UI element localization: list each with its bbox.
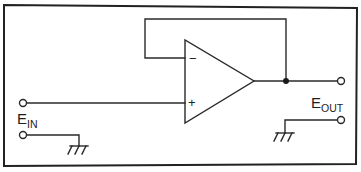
inverting-input-sign: − (189, 51, 197, 66)
output-ground-wire (285, 120, 338, 133)
output-label: EOUT (311, 94, 344, 114)
output-terminal-ground (338, 117, 345, 124)
ground-icon-out (274, 133, 294, 141)
feedback-wire (145, 19, 286, 81)
junction-node (283, 78, 289, 84)
input-label-sub: IN (27, 118, 38, 130)
input-terminal-signal (20, 100, 27, 107)
input-ground-wire (26, 135, 79, 146)
input-terminal-ground (20, 132, 27, 139)
input-label-main: E (17, 110, 27, 127)
ground-icon-in (68, 146, 88, 154)
diagram-frame (4, 5, 357, 166)
noninverting-input-sign: + (188, 95, 196, 110)
circuit-diagram: − + EIN EOUT (0, 0, 361, 172)
output-terminal-signal (338, 78, 345, 85)
output-label-sub: OUT (321, 102, 344, 114)
output-label-main: E (311, 94, 321, 111)
input-label: EIN (17, 110, 38, 130)
